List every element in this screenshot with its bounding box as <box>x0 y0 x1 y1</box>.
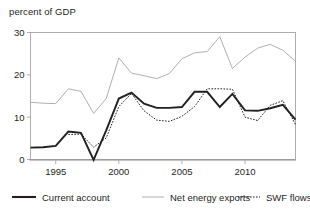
x-axis-ticks: 1995200020052010 <box>45 161 255 178</box>
x-tick-label: 1995 <box>45 166 66 177</box>
y-axis-ticks: 0102030 <box>14 27 31 165</box>
plot-frame <box>30 33 297 161</box>
y-tick-label: 30 <box>14 27 25 38</box>
line-chart-svg: 0102030 1995200020052010 <box>0 0 310 211</box>
legend-svg: Current accountNet energy exportsSWF flo… <box>0 186 310 211</box>
chart-figure: percent of GDP 0102030 1995200020052010 … <box>0 0 310 211</box>
x-tick-label: 2000 <box>108 166 129 177</box>
y-tick-label: 0 <box>19 154 24 165</box>
y-tick-label: 10 <box>14 112 25 123</box>
legend-label-1: Current account <box>42 192 110 203</box>
series-line <box>31 37 296 114</box>
series-line <box>31 92 296 160</box>
x-tick-label: 2005 <box>171 166 192 177</box>
data-series-group <box>31 37 296 160</box>
plot-area: 0102030 1995200020052010 <box>0 0 310 211</box>
legend-label-3: SWF flows <box>266 192 310 203</box>
x-tick-label: 2010 <box>234 166 255 177</box>
chart-legend: Current accountNet energy exportsSWF flo… <box>0 186 310 211</box>
y-tick-label: 20 <box>14 69 25 80</box>
